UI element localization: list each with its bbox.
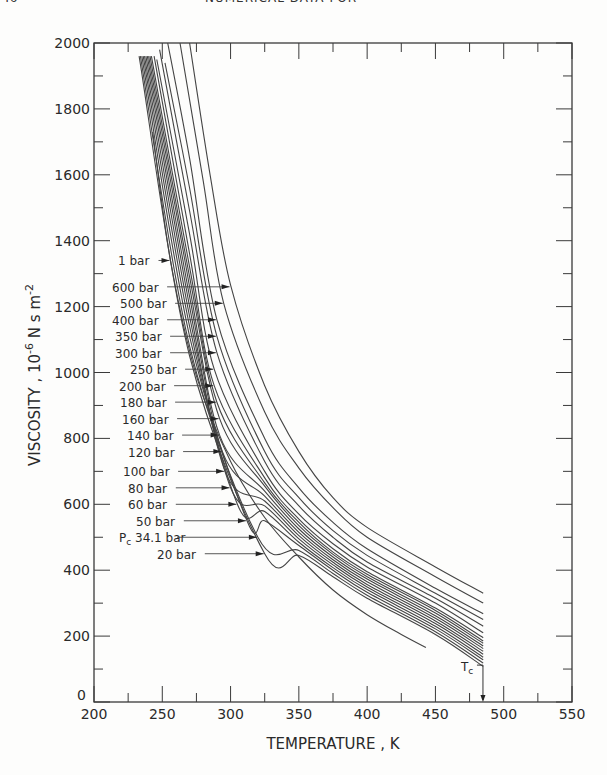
svg-text:600 bar: 600 bar (112, 281, 159, 295)
critical-temperature-marker: Tc (460, 660, 486, 702)
isobar-label: 600 bar (112, 281, 230, 295)
x-tick-label: 400 (354, 706, 381, 722)
isobar-label: 140 bar (127, 429, 219, 443)
isobar-label: 100 bar (123, 465, 224, 479)
tc-label: Tc (460, 660, 473, 676)
svg-text:80 bar: 80 bar (128, 482, 167, 496)
svg-text:20 bar: 20 bar (157, 548, 196, 562)
svg-text:250 bar: 250 bar (130, 363, 177, 377)
isobar-curve-100-bar (146, 56, 483, 651)
y-tick-label: 400 (63, 562, 90, 578)
y-tick-label: 1000 (54, 365, 90, 381)
svg-text:500 bar: 500 bar (120, 297, 167, 311)
isobar-label: 80 bar (128, 482, 230, 496)
svg-text:140 bar: 140 bar (127, 429, 174, 443)
isobar-label: 50 bar (136, 515, 246, 529)
svg-text:100 bar: 100 bar (123, 465, 170, 479)
x-tick-label: 550 (559, 706, 586, 722)
y-axis-title: VISCOSITY , 10-6 N s m-2 (23, 284, 44, 466)
x-tick-label: 450 (422, 706, 449, 722)
x-tick-label: 500 (490, 706, 517, 722)
svg-text:60 bar: 60 bar (128, 498, 167, 512)
svg-text:Pc 34.1 bar: Pc 34.1 bar (119, 531, 186, 547)
svg-text:300 bar: 300 bar (115, 347, 162, 361)
isobar-curve-350-bar (165, 63, 483, 620)
svg-text:350 bar: 350 bar (115, 330, 162, 344)
svg-text:50 bar: 50 bar (136, 515, 175, 529)
y-tick-label: 800 (63, 430, 90, 446)
x-axis-title: TEMPERATURE , K (265, 735, 400, 753)
svg-text:180 bar: 180 bar (120, 396, 167, 410)
isobar-label: 120 bar (128, 446, 221, 460)
x-tick-label: 250 (149, 706, 176, 722)
svg-text:400 bar: 400 bar (112, 314, 159, 328)
y-tick-label: 600 (63, 496, 90, 512)
x-tick-label: 200 (81, 706, 108, 722)
svg-text:120 bar: 120 bar (128, 446, 175, 460)
isobar-label: 500 bar (120, 297, 223, 311)
svg-text:200 bar: 200 bar (119, 380, 166, 394)
isobar-label: 160 bar (122, 413, 219, 427)
x-tick-label: 300 (217, 706, 244, 722)
isobar-curves (139, 43, 483, 666)
x-tick-label: 350 (285, 706, 312, 722)
svg-text:1 bar: 1 bar (118, 254, 149, 268)
viscosity-chart: 2002503003504004505005500200400600800100… (0, 0, 607, 775)
y-tick-label: 1800 (54, 101, 90, 117)
isobar-labels: 600 bar500 bar400 bar350 bar300 bar250 b… (112, 254, 264, 561)
y-tick-label: 1200 (54, 299, 90, 315)
isobar-label: 1 bar (118, 254, 169, 268)
y-tick-label: 0 (77, 687, 86, 703)
isobar-label: Pc 34.1 bar (119, 531, 257, 547)
axis-ticks: 2002503003504004505005500200400600800100… (54, 35, 585, 722)
y-tick-label: 1400 (54, 233, 90, 249)
y-tick-label: 200 (63, 628, 90, 644)
isobar-label: 20 bar (157, 548, 264, 562)
svg-text:160 bar: 160 bar (122, 413, 169, 427)
y-tick-label: 2000 (54, 35, 90, 51)
isobar-curve-500-bar (180, 43, 483, 603)
isobar-label: 60 bar (128, 498, 236, 512)
y-tick-label: 1600 (54, 167, 90, 183)
